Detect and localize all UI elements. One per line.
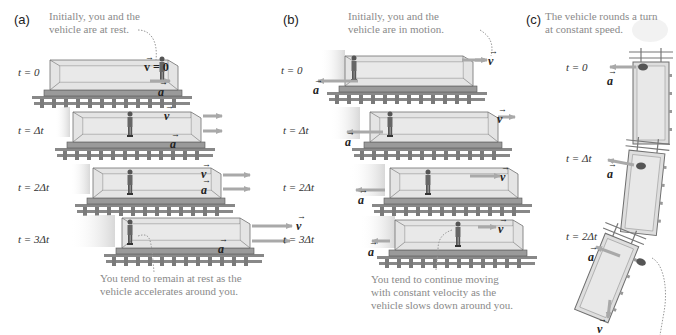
time-label-a1: t = Δt <box>18 124 44 136</box>
caption-line: vehicle are in motion. <box>348 23 444 36</box>
accel-vector-label: →a <box>313 83 319 98</box>
panel-b-label: (b) <box>283 12 299 27</box>
panel-b-top-caption: Initially, you and the vehicle are in mo… <box>348 10 444 36</box>
accel-vector-label: →a <box>607 167 613 182</box>
velocity-vector-label: →v <box>488 54 493 69</box>
velocity-vector-label: →v <box>497 112 502 127</box>
time-label-a0: t = 0 <box>18 66 39 78</box>
time-label-b2: t = 2Δt <box>283 181 314 193</box>
panel-a-top-caption: Initially, you and the vehicle are at re… <box>49 10 140 36</box>
caption-line: with constant velocity as the <box>371 286 513 299</box>
panel-b-drawing <box>318 30 537 270</box>
time-label-b1: t = Δt <box>283 124 309 136</box>
accel-vector-label: →a <box>588 250 594 265</box>
accel-vector-label: →a <box>345 135 351 150</box>
time-label-a3: t = 3Δt <box>18 233 49 245</box>
time-label-b0: t = 0 <box>281 64 302 76</box>
caption-line: You tend to remain at rest as the <box>100 272 242 285</box>
caption-line: at constant speed. <box>545 23 657 36</box>
time-label-c2: t = 2Δt <box>566 230 597 242</box>
caption-line: vehicle slows down around you. <box>371 299 513 312</box>
panel-c-top-caption: The vehicle rounds a turn at constant sp… <box>545 10 657 36</box>
velocity-zero-label: →v = 0 <box>144 60 169 75</box>
caption-line: vehicle are at rest. <box>49 23 140 36</box>
accel-vector-label: →a <box>368 245 374 260</box>
velocity-vector-label: →v <box>597 322 602 335</box>
accel-vector-label: →a <box>358 193 364 208</box>
accel-vector-label: →a <box>201 183 207 198</box>
velocity-vector-label: →v <box>498 222 503 237</box>
caption-line: The vehicle rounds a turn <box>545 10 657 23</box>
caption-line: Initially, you and the <box>49 10 140 23</box>
panel-b-bottom-caption: You tend to continue moving with constan… <box>371 273 513 312</box>
accel-vector-label: →a <box>158 85 164 100</box>
panel-a-label: (a) <box>14 12 30 27</box>
caption-line: You tend to continue moving <box>371 273 513 286</box>
velocity-vector-label: →v <box>296 219 301 234</box>
accel-vector-label: →a <box>170 137 176 152</box>
velocity-vector-label: →v <box>500 170 505 185</box>
velocity-vector-label: →v <box>164 109 169 124</box>
accel-vector-label: →a <box>218 242 224 257</box>
caption-line: vehicle accelerates around you. <box>100 285 242 298</box>
time-label-b3: t = 3Δt <box>283 233 314 245</box>
accel-vector-label: →a <box>607 74 613 89</box>
time-label-a2: t = 2Δt <box>18 181 49 193</box>
time-label-c1: t = Δt <box>566 152 592 164</box>
caption-line: Initially, you and the <box>348 10 444 23</box>
panel-c-label: (c) <box>526 12 541 27</box>
panel-a-bottom-caption: You tend to remain at rest as the vehicl… <box>100 272 242 298</box>
time-label-c0: t = 0 <box>566 61 587 73</box>
